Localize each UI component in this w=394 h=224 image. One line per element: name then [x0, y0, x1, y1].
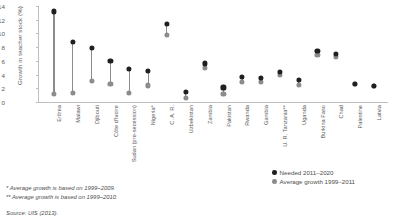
x-tick-label: Nigeria*	[150, 105, 156, 125]
data-point-needed	[145, 69, 150, 74]
x-tick-label: Palestine	[357, 105, 363, 128]
data-point-average-growth	[127, 91, 132, 96]
chart-legend: Needed 2011–2020Average growth 1999–2011	[272, 168, 355, 186]
data-point-needed	[183, 90, 188, 95]
x-axis-line	[38, 102, 388, 103]
y-tick-label: 6	[0, 57, 5, 64]
data-point-needed	[371, 84, 376, 89]
chart-root: Growth in teacher stock (%) 02468101214 …	[0, 0, 394, 224]
data-point-average-growth	[221, 92, 226, 97]
x-tick-label: Rwanda	[244, 105, 250, 126]
data-point-average-growth	[202, 66, 207, 71]
x-tick-label: C. A. R.	[169, 105, 175, 125]
x-tick-label: Sudan (pre-secession)	[131, 105, 137, 162]
x-tick-label: Pakistan	[226, 105, 232, 127]
plot-area	[38, 6, 388, 102]
x-tick-label: Côte d'Ivoire	[113, 105, 119, 137]
data-point-needed	[296, 77, 301, 82]
y-tick-label: 2	[0, 85, 5, 92]
source-line: Source: UIS (2013).	[6, 210, 58, 216]
x-tick-label: Chad	[338, 105, 344, 119]
legend-dot-icon	[272, 179, 277, 184]
data-point-needed	[108, 58, 113, 63]
data-point-needed	[221, 85, 226, 90]
y-axis-title: Growth in teacher stock (%)	[16, 0, 23, 101]
legend-item: Average growth 1999–2011	[272, 177, 355, 186]
x-tick-label: U. R. Tanzania**	[282, 105, 288, 147]
data-point-average-growth	[70, 91, 75, 96]
data-point-needed	[164, 21, 169, 26]
y-tick-label: 0	[0, 99, 5, 106]
x-tick-label: Burkina Faso	[320, 105, 326, 139]
x-tick-label: Uzbekistan	[188, 105, 194, 133]
data-point-average-growth	[145, 83, 150, 88]
data-point-average-growth	[51, 92, 56, 97]
connector-stem	[91, 48, 92, 81]
x-tick-label: Djibouti	[94, 105, 100, 124]
x-tick-label: Gambia	[263, 105, 269, 125]
connector-stem	[129, 69, 130, 93]
y-tick-label: 8	[0, 44, 5, 51]
data-point-average-growth	[108, 82, 113, 87]
legend-label: Needed 2011–2020	[280, 168, 334, 177]
y-tick-mark	[36, 102, 38, 103]
connector-stem	[72, 42, 73, 93]
data-point-needed	[127, 67, 132, 72]
footnote-2: ** Average growth is based on 1999–2010.	[6, 193, 118, 202]
x-tick-label: Eritrea	[56, 105, 62, 122]
data-point-needed	[70, 40, 75, 45]
data-point-needed	[240, 75, 245, 80]
legend-label: Average growth 1999–2011	[280, 177, 355, 186]
data-point-average-growth	[296, 82, 301, 87]
connector-stem	[53, 11, 54, 94]
footnotes: * Average growth is based on 1999–2009. …	[6, 184, 118, 201]
x-tick-label: Malawi	[75, 105, 81, 123]
data-point-average-growth	[240, 80, 245, 85]
data-point-needed	[352, 82, 357, 87]
y-tick-label: 4	[0, 71, 5, 78]
data-point-average-growth	[164, 32, 169, 37]
y-tick-label: 10	[0, 30, 5, 37]
legend-item: Needed 2011–2020	[272, 168, 355, 177]
y-tick-label: 12	[0, 16, 5, 23]
data-point-average-growth	[183, 95, 188, 100]
x-tick-label: Uganda	[301, 105, 307, 125]
y-tick-label: 14	[0, 3, 5, 10]
data-point-needed	[89, 45, 94, 50]
legend-dot-icon	[272, 170, 277, 175]
data-point-needed	[51, 9, 56, 14]
data-point-needed	[202, 61, 207, 66]
data-point-average-growth	[89, 78, 94, 83]
x-tick-label: Zambia	[207, 105, 213, 124]
x-tick-label: Latvia	[376, 105, 382, 120]
footnote-1: * Average growth is based on 1999–2009.	[6, 184, 118, 193]
